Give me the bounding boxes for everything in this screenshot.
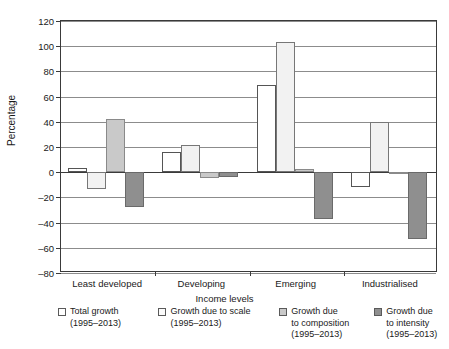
legend-label: Growth due to intensity (1995–2013) xyxy=(386,306,437,341)
x-axis-category-label: Developing xyxy=(178,278,226,289)
bar xyxy=(68,168,87,172)
y-axis-title: Percentage xyxy=(6,95,17,146)
bar xyxy=(125,172,144,207)
x-axis-title: Income levels xyxy=(0,293,449,304)
bar xyxy=(408,172,427,239)
legend-swatch-icon xyxy=(158,308,166,316)
legend-item[interactable]: Total growth (1995–2013) xyxy=(58,306,148,329)
legend-item[interactable]: Growth due to composition (1995–2013) xyxy=(279,306,364,341)
category-separator xyxy=(250,271,251,276)
y-axis-tick-label: 100 xyxy=(38,41,54,52)
bar xyxy=(257,85,276,172)
plot-area: 120100806040200–20–40–60–80 xyxy=(60,20,437,272)
bar xyxy=(181,145,200,172)
x-axis-category-label: Least developed xyxy=(72,278,142,289)
y-axis-tick-label: –80 xyxy=(38,268,54,279)
legend-label: Growth due to composition (1995–2013) xyxy=(291,306,349,341)
bar xyxy=(162,152,181,172)
bars-layer xyxy=(61,21,436,271)
bar xyxy=(314,172,333,219)
bar xyxy=(200,172,219,178)
x-axis-category-label: Emerging xyxy=(275,278,316,289)
bar xyxy=(389,172,408,174)
y-axis-tick-label: –20 xyxy=(38,192,54,203)
legend-swatch-icon xyxy=(58,308,66,316)
bar xyxy=(276,42,295,172)
y-axis-tick-label: 20 xyxy=(43,142,54,153)
bar-chart: Percentage 120100806040200–20–40–60–80 L… xyxy=(0,0,449,349)
category-separator xyxy=(344,271,345,276)
bar xyxy=(295,169,314,172)
legend-item[interactable]: Growth due to scale (1995–2013) xyxy=(158,306,269,329)
y-axis-tick-label: –60 xyxy=(38,242,54,253)
legend: Total growth (1995–2013)Growth due to sc… xyxy=(58,306,448,341)
y-axis-tick-label: 80 xyxy=(43,66,54,77)
bar xyxy=(370,122,389,172)
bar xyxy=(351,172,370,187)
legend-swatch-icon xyxy=(279,308,287,316)
y-axis-tick-label: 40 xyxy=(43,116,54,127)
legend-label: Growth due to scale (1995–2013) xyxy=(170,306,250,329)
bar xyxy=(106,119,125,172)
legend-label: Total growth (1995–2013) xyxy=(70,306,121,329)
y-axis-tick-label: 0 xyxy=(49,167,54,178)
bar xyxy=(87,172,106,188)
y-axis-tick-label: –40 xyxy=(38,217,54,228)
bar xyxy=(219,172,238,177)
legend-item[interactable]: Growth due to intensity (1995–2013) xyxy=(374,306,448,341)
gridline xyxy=(61,273,436,274)
y-axis-tick-label: 60 xyxy=(43,91,54,102)
x-axis-category-label: Industrialised xyxy=(362,278,418,289)
legend-swatch-icon xyxy=(374,308,382,316)
y-axis-tick-label: 120 xyxy=(38,16,54,27)
category-separator xyxy=(155,271,156,276)
y-axis-tick xyxy=(56,273,61,274)
